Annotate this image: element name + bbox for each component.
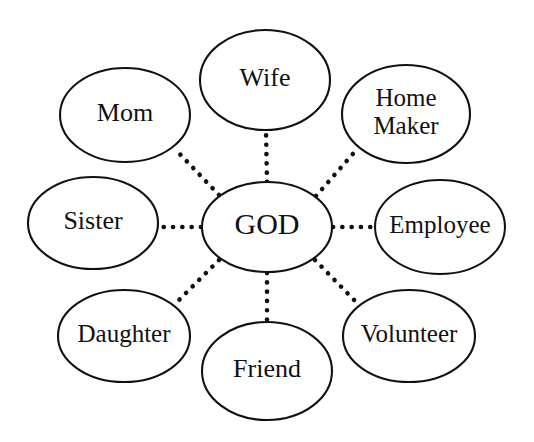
- node-volunteer[interactable]: Volunteer: [343, 290, 475, 382]
- node-label-line: Wife: [240, 63, 291, 92]
- node-home-maker[interactable]: HomeMaker: [342, 65, 470, 163]
- node-label-line: Friend: [233, 354, 301, 383]
- connector-god-to-volunteer: [315, 260, 358, 304]
- node-daughter[interactable]: Daughter: [58, 290, 190, 382]
- node-friend[interactable]: Friend: [202, 322, 332, 420]
- node-employee[interactable]: Employee: [375, 180, 505, 274]
- connector-god-to-home-maker: [316, 148, 358, 196]
- node-label-line: GOD: [235, 207, 300, 240]
- node-label-god: GOD: [235, 207, 300, 240]
- diagram-canvas: WifeHomeMakerEmployeeVolunteerFriendDaug…: [0, 0, 534, 442]
- relationship-diagram: WifeHomeMakerEmployeeVolunteerFriendDaug…: [0, 0, 534, 442]
- connector-god-to-mom: [176, 150, 219, 195]
- node-mom[interactable]: Mom: [60, 68, 190, 162]
- node-wife[interactable]: Wife: [200, 30, 330, 130]
- node-label-line: Home: [375, 84, 436, 111]
- connector-god-to-wife: [266, 131, 267, 182]
- node-label-volunteer: Volunteer: [361, 320, 458, 347]
- node-label-friend: Friend: [233, 354, 301, 383]
- node-label-employee: Employee: [389, 211, 490, 238]
- node-label-daughter: Daughter: [77, 320, 171, 347]
- node-god[interactable]: GOD: [202, 182, 332, 272]
- node-label-line: Maker: [373, 112, 439, 139]
- node-label-wife: Wife: [240, 63, 291, 92]
- node-label-home-maker: HomeMaker: [373, 84, 439, 139]
- node-label-line: Mom: [97, 98, 153, 127]
- node-label-line: Daughter: [77, 320, 171, 347]
- node-label-line: Sister: [63, 206, 123, 235]
- node-label-mom: Mom: [97, 98, 153, 127]
- node-label-line: Volunteer: [361, 320, 458, 347]
- node-sister[interactable]: Sister: [28, 177, 158, 269]
- nodes-layer: WifeHomeMakerEmployeeVolunteerFriendDaug…: [28, 30, 505, 420]
- connector-god-to-daughter: [176, 260, 219, 303]
- node-label-sister: Sister: [63, 206, 123, 235]
- node-label-line: Employee: [389, 211, 490, 238]
